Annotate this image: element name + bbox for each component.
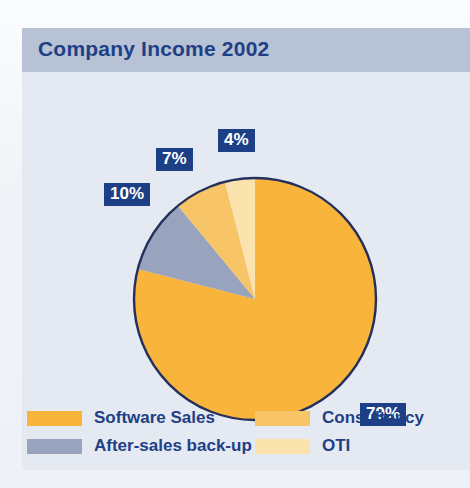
chart-header-band: Company Income 2002 — [22, 28, 470, 72]
legend-item-software-sales: Software Sales — [27, 408, 215, 428]
legend-swatch-icon — [27, 411, 82, 426]
legend-item-label: Software Sales — [94, 408, 215, 428]
page-title: Company Income 2002 — [38, 37, 269, 61]
pie-chart-svg — [22, 72, 470, 422]
legend-item-after-sales-back-up: After-sales back-up — [27, 436, 252, 456]
legend-item-label: Consultancy — [322, 408, 424, 428]
legend-item-label: After-sales back-up — [94, 436, 252, 456]
legend-item-oti: OTI — [255, 436, 350, 456]
page-background: Company Income 2002 79% 10% 7% 4% Softwa… — [0, 0, 470, 488]
legend-item-label: OTI — [322, 436, 350, 456]
pie-slice-group — [134, 178, 376, 420]
chart-panel: Company Income 2002 79% 10% 7% 4% Softwa… — [22, 28, 470, 470]
pie-label-after-sales-back-up: 10% — [104, 183, 150, 206]
pie-chart: 79% 10% 7% 4% — [22, 72, 470, 422]
pie-label-oti: 4% — [218, 129, 255, 152]
chart-legend: Software Sales After-sales back-up Consu… — [22, 406, 470, 470]
legend-swatch-icon — [27, 439, 82, 454]
pie-label-consultancy: 7% — [156, 148, 193, 171]
legend-swatch-icon — [255, 439, 310, 454]
legend-swatch-icon — [255, 411, 310, 426]
legend-item-consultancy: Consultancy — [255, 408, 424, 428]
